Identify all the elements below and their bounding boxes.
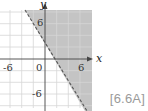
origin-label: 0 <box>36 63 42 73</box>
x-tick-6: 6 <box>78 63 84 73</box>
y-tick-neg6: -6 <box>32 89 42 99</box>
x-axis-label: x <box>96 53 102 64</box>
reference-label: [6.6A] <box>110 91 145 106</box>
y-tick-6: 6 <box>37 18 43 28</box>
y-axis-label: y <box>40 0 46 10</box>
x-tick-neg6: -6 <box>3 63 13 73</box>
